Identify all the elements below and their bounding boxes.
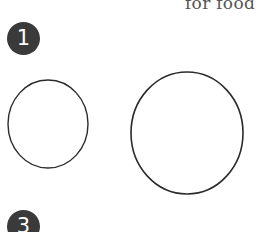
sketch-drawing [0, 0, 263, 232]
small-circle-sketch [8, 80, 88, 168]
large-circle-sketch [131, 72, 243, 194]
